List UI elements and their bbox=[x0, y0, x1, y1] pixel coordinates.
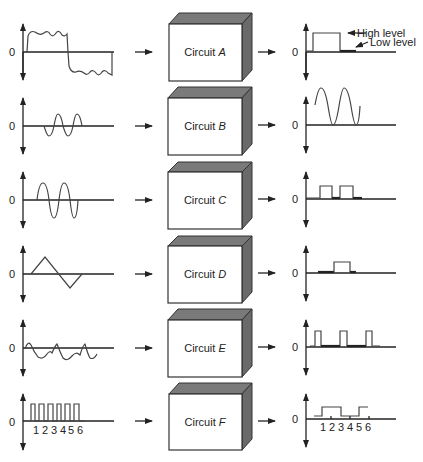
svg-text:5: 5 bbox=[356, 421, 362, 433]
circuit-box-a: Circuit A bbox=[169, 13, 252, 81]
svg-text:3: 3 bbox=[338, 421, 344, 433]
svg-text:Circuit D: Circuit D bbox=[184, 268, 226, 280]
svg-text:5: 5 bbox=[68, 424, 74, 436]
row-c: 0 Circuit C 0 bbox=[9, 162, 396, 229]
output-graph-a: 0 High level Low level bbox=[292, 24, 416, 80]
input-graph-d: 0 bbox=[9, 246, 114, 302]
row-e: 0 Circuit E 0 bbox=[9, 309, 396, 377]
svg-text:0: 0 bbox=[292, 413, 298, 425]
circuit-box-d: Circuit D bbox=[168, 236, 252, 303]
svg-text:3: 3 bbox=[51, 424, 57, 436]
zero-label: 0 bbox=[9, 46, 15, 58]
svg-text:Circuit B: Circuit B bbox=[184, 120, 226, 132]
input-graph-e: 0 bbox=[9, 320, 114, 376]
input-graph-f: 0 1 2 3 4 5 6 bbox=[9, 394, 114, 450]
input-graph-a: 0 bbox=[9, 24, 114, 80]
svg-text:0: 0 bbox=[9, 268, 15, 280]
svg-text:2: 2 bbox=[42, 424, 48, 436]
pulse-numbers-output: 1 2 3 4 5 6 bbox=[320, 421, 371, 433]
svg-text:Circuit F: Circuit F bbox=[185, 416, 227, 428]
svg-text:0: 0 bbox=[292, 119, 298, 131]
output-graph-f: 0 1 2 3 4 5 6 bbox=[292, 394, 396, 447]
svg-text:0: 0 bbox=[9, 416, 15, 428]
input-graph-c: 0 bbox=[9, 172, 114, 228]
svg-text:2: 2 bbox=[329, 421, 335, 433]
output-graph-e: 0 bbox=[292, 320, 396, 375]
row-b: 0 Circuit B 0 bbox=[9, 87, 396, 155]
circuit-box-b: Circuit B bbox=[168, 87, 252, 155]
circuit-box-f: Circuit F bbox=[169, 383, 252, 450]
svg-text:6: 6 bbox=[77, 424, 83, 436]
svg-text:0: 0 bbox=[9, 342, 15, 354]
output-graph-b: 0 bbox=[292, 88, 396, 153]
svg-text:0: 0 bbox=[292, 341, 298, 353]
svg-text:0: 0 bbox=[292, 267, 298, 279]
low-level-label: Low level bbox=[370, 36, 416, 48]
svg-text:Circuit A: Circuit A bbox=[184, 46, 226, 58]
output-graph-c: 0 bbox=[292, 172, 396, 227]
svg-text:0: 0 bbox=[292, 193, 298, 205]
svg-text:4: 4 bbox=[60, 424, 66, 436]
circuit-box-c: Circuit C bbox=[168, 162, 252, 229]
circuit-box-e: Circuit E bbox=[168, 309, 252, 377]
svg-text:1: 1 bbox=[33, 424, 39, 436]
circuit-signal-diagram: 0 Circuit A 0 High level Low level bbox=[0, 0, 423, 462]
svg-text:Circuit C: Circuit C bbox=[184, 194, 226, 206]
svg-text:Circuit E: Circuit E bbox=[184, 342, 226, 354]
svg-text:4: 4 bbox=[347, 421, 353, 433]
svg-text:1: 1 bbox=[320, 421, 326, 433]
svg-text:6: 6 bbox=[365, 421, 371, 433]
row-f: 0 1 2 3 4 5 6 Circuit F 0 bbox=[9, 383, 396, 450]
output-graph-d: 0 bbox=[292, 246, 396, 301]
svg-text:0: 0 bbox=[9, 194, 15, 206]
input-graph-b: 0 bbox=[9, 98, 114, 154]
pulse-numbers-input: 1 2 3 4 5 6 bbox=[33, 424, 83, 436]
row-a: 0 Circuit A 0 High level Low level bbox=[9, 13, 416, 81]
svg-text:0: 0 bbox=[292, 46, 298, 58]
svg-text:0: 0 bbox=[9, 120, 15, 132]
row-d: 0 Circuit D 0 bbox=[9, 236, 396, 303]
